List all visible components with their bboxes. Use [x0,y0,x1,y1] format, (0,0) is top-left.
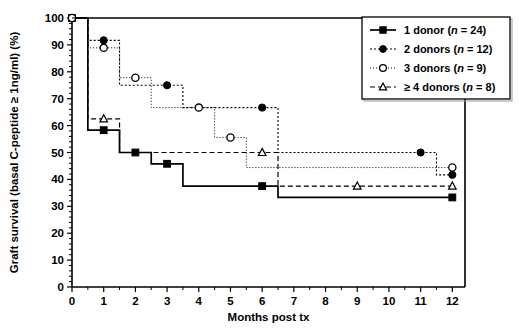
marker-filled-square [449,194,456,201]
marker-filled-circle [417,149,424,156]
x-tick-label: 9 [354,295,360,307]
y-tick-label: 40 [51,173,64,185]
y-tick-label: 0 [58,281,64,293]
x-tick-label: 10 [383,295,396,307]
x-axis-title: Months post tx [228,311,310,323]
marker-filled-circle [163,82,170,89]
x-tick-label: 5 [227,295,234,307]
y-tick-label: 100 [45,12,64,24]
y-tick-label: 10 [51,254,64,266]
chart-canvas: 01020304050607080901000123456789101112Mo… [0,0,519,332]
legend-label-1: 1 donor (n = 24) [404,24,487,36]
x-tick-label: 1 [100,295,107,307]
x-tick-label: 6 [259,295,265,307]
marker-open-circle [132,74,139,81]
legend-marker-3 [380,65,387,72]
legend-label-2: 2 donors (n = 12) [404,43,493,55]
kaplan-meier-chart: 01020304050607080901000123456789101112Mo… [0,0,519,332]
x-tick-label: 2 [132,295,138,307]
x-tick-label: 4 [196,295,203,307]
marker-open-circle [449,164,456,171]
x-tick-label: 8 [322,295,329,307]
legend-marker-1 [380,27,386,33]
marker-open-circle [195,104,202,111]
x-tick-label: 11 [415,295,428,307]
marker-filled-circle [449,171,456,178]
legend-label-4: ≥ 4 donors (n = 8) [404,81,496,93]
y-tick-label: 60 [51,120,64,132]
marker-filled-square [100,127,107,134]
x-tick-label: 7 [291,295,297,307]
y-axis-title: Graft survival (basal C-peptide ≥ 1ng/ml… [8,32,20,274]
y-tick-label: 80 [51,66,64,78]
marker-filled-square [259,183,266,190]
x-tick-label: 3 [164,295,170,307]
marker-open-circle [227,134,234,141]
legend: 1 donor (n = 24)2 donors (n = 12)3 donor… [362,17,512,101]
y-tick-label: 50 [51,147,64,159]
x-tick-label: 0 [69,295,75,307]
marker-filled-circle [100,37,107,44]
y-tick-label: 20 [51,227,64,239]
y-tick-label: 90 [51,39,64,51]
y-tick-label: 70 [51,93,64,105]
legend-marker-2 [380,46,387,53]
marker-filled-square [164,160,171,167]
marker-filled-circle [259,104,266,111]
marker-open-circle [100,44,107,51]
y-tick-label: 30 [51,200,64,212]
x-tick-label: 12 [446,295,459,307]
legend-label-3: 3 donors (n = 9) [404,62,487,74]
